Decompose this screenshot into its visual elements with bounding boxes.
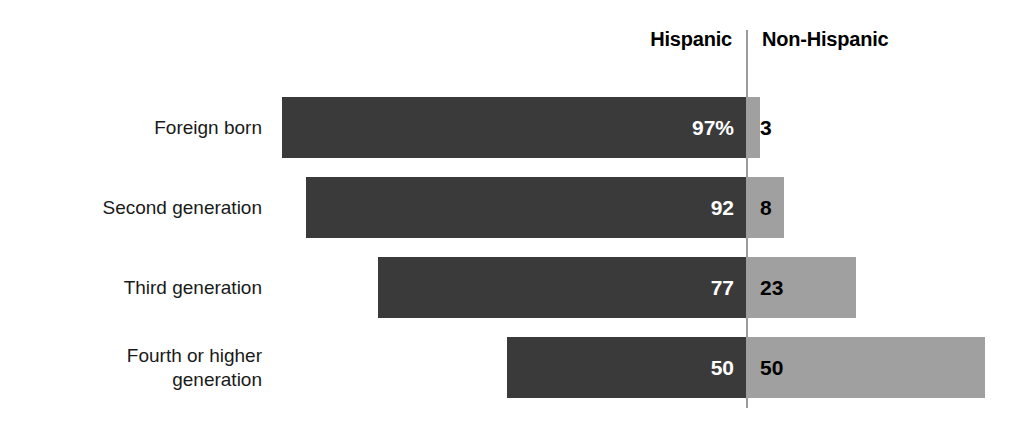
value-label-non-hispanic: 3 xyxy=(760,97,772,158)
category-label-line1: Foreign born xyxy=(154,117,262,138)
category-label: Third generation xyxy=(0,276,262,300)
stacked-bar xyxy=(507,337,985,398)
value-label-hispanic: 92 xyxy=(626,177,734,238)
plot-area: Foreign born97%3Second generation928Thir… xyxy=(0,0,1030,436)
category-label-line1: Fourth or higher xyxy=(127,345,262,366)
value-label-non-hispanic: 23 xyxy=(760,257,783,318)
chart-row: Second generation928 xyxy=(0,177,1030,257)
category-label: Second generation xyxy=(0,196,262,220)
value-label-hispanic: 97% xyxy=(626,97,734,158)
category-label-line2: generation xyxy=(0,368,262,392)
chart-row: Fourth or highergeneration5050 xyxy=(0,337,1030,417)
stacked-bar xyxy=(378,257,856,318)
chart-row: Third generation7723 xyxy=(0,257,1030,337)
value-label-non-hispanic: 50 xyxy=(760,337,783,398)
chart-row: Foreign born97%3 xyxy=(0,97,1030,177)
value-label-hispanic: 50 xyxy=(626,337,734,398)
chart-container: Hispanic Non-Hispanic Foreign born97%3Se… xyxy=(0,0,1030,436)
value-label-non-hispanic: 8 xyxy=(760,177,772,238)
category-label: Fourth or highergeneration xyxy=(0,344,262,392)
value-label-hispanic: 77 xyxy=(626,257,734,318)
bar-segment-non-hispanic xyxy=(746,97,760,158)
category-label: Foreign born xyxy=(0,116,262,140)
category-label-line1: Third generation xyxy=(124,277,262,298)
category-label-line1: Second generation xyxy=(102,197,262,218)
